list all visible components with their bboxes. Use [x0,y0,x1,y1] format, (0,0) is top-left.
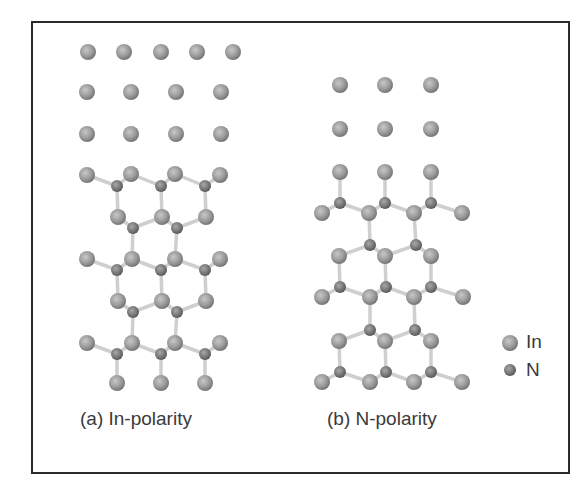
bonds-layer [87,172,463,383]
in-atom-icon [423,164,439,180]
in-atom-icon [124,335,140,351]
in-atom-icon [454,374,470,390]
in-atom-icon [79,167,95,183]
in-atom-icon [212,335,228,351]
in-atom-icon [110,209,126,225]
n-atom-icon [111,264,123,276]
in-atom-icon [423,77,439,93]
in-atom-icon [362,289,378,305]
in-atom-icon [362,374,378,390]
n-atom-icon [410,239,422,251]
n-atom-icon [425,366,437,378]
legend-n-atom-icon [504,364,516,376]
in-atom-icon [153,375,169,391]
in-atom-icon [225,44,241,60]
in-atom-icon [332,77,348,93]
n-atom-icon [379,197,391,209]
in-atom-icon [168,126,184,142]
in-atom-icon [110,293,126,309]
n-atom-icon [364,324,376,336]
n-atom-icon [127,222,139,234]
in-atom-icon [377,164,393,180]
in-atom-icon [198,209,214,225]
n-atom-icon [111,180,123,192]
n-atom-icon [334,366,346,378]
in-atom-icon [212,251,228,267]
n-atom-icon [155,180,167,192]
caption-in-polarity: (a) In-polarity [80,408,192,430]
in-atom-icon [423,121,439,137]
n-atom-icon [380,281,392,293]
in-atom-icon [406,374,422,390]
in-atom-icon [153,44,169,60]
n-atom-icon [111,348,123,360]
in-atom-icon [332,121,348,137]
legend-label-in: In [526,331,542,353]
in-atom-icon [377,333,393,349]
n-atom-icon [380,366,392,378]
in-atom-icon [212,167,228,183]
in-atom-icon [124,251,140,267]
in-atom-icon [314,374,330,390]
in-atom-icon [189,44,205,60]
in-atom-icon [123,126,139,142]
n-atom-icon [171,306,183,318]
in-atom-icon [168,84,184,100]
in-atom-icon [123,84,139,100]
legend-label-n: N [526,359,540,381]
in-atom-icon [109,375,125,391]
in-atom-icon [79,126,95,142]
n-atom-icon [199,180,211,192]
in-atom-icon [167,335,183,351]
in-atom-icon [377,77,393,93]
n-atom-icon [155,348,167,360]
n-atom-icon [171,222,183,234]
n-atom-icon [199,264,211,276]
in-atom-icon [213,126,229,142]
in-atom-icon [123,166,139,182]
in-atom-icon [377,248,393,264]
in-atom-icon [79,84,95,100]
in-atom-icon [423,248,439,264]
in-atom-icon [167,251,183,267]
in-atom-icon [361,205,377,221]
in-atom-icon [314,289,330,305]
in-atom-icon [331,333,347,349]
in-atom-icon [154,293,170,309]
in-atom-icon [454,205,470,221]
in-atom-icon [198,293,214,309]
in-atom-icon [332,164,348,180]
atoms-layer [79,44,471,391]
n-atom-icon [425,197,437,209]
in-atom-icon [406,205,422,221]
in-atom-icon [79,335,95,351]
in-atom-icon [213,84,229,100]
in-atom-icon [377,121,393,137]
n-atom-icon [127,306,139,318]
in-atom-icon [455,289,471,305]
in-atom-icon [116,44,132,60]
n-atom-icon [334,281,346,293]
n-atom-icon [199,348,211,360]
in-atom-icon [423,333,439,349]
in-atom-icon [167,166,183,182]
n-atom-icon [425,281,437,293]
n-atom-icon [334,197,346,209]
in-atom-icon [80,44,96,60]
n-atom-icon [409,324,421,336]
n-atom-icon [155,264,167,276]
legend-icons [502,335,518,376]
in-atom-icon [197,375,213,391]
legend-in-atom-icon [502,335,518,351]
n-atom-icon [364,239,376,251]
in-atom-icon [314,205,330,221]
caption-n-polarity: (b) N-polarity [327,408,437,430]
in-atom-icon [331,248,347,264]
in-atom-icon [406,289,422,305]
in-atom-icon [154,209,170,225]
in-atom-icon [79,251,95,267]
